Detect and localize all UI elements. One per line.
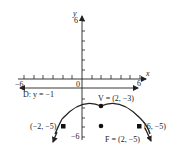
x-axis-label: x bbox=[145, 69, 150, 78]
x-right-label: 6 bbox=[137, 79, 141, 88]
parabola-curve bbox=[55, 103, 150, 134]
x-left-label: −6 bbox=[15, 80, 24, 89]
y-bottom-label: −6 bbox=[71, 132, 80, 141]
left-point bbox=[61, 124, 66, 129]
vertex-point bbox=[99, 104, 104, 109]
y-top-label: 6 bbox=[74, 16, 78, 25]
left-point-label: (−2, −5) bbox=[30, 122, 57, 131]
x-origin-label: 0 bbox=[76, 80, 80, 89]
right-point bbox=[137, 124, 142, 129]
directrix-label: D: y = −1 bbox=[23, 90, 54, 99]
parabola-diagram: y 6 x −6 0 6 D: y = −1 V = (2, −3) (−2, … bbox=[0, 0, 175, 157]
focus-point bbox=[99, 124, 104, 129]
focus-label: F = (2, −5) bbox=[105, 135, 140, 144]
right-point-label: (6, −5) bbox=[144, 122, 166, 131]
vertex-label: V = (2, −3) bbox=[98, 94, 134, 103]
